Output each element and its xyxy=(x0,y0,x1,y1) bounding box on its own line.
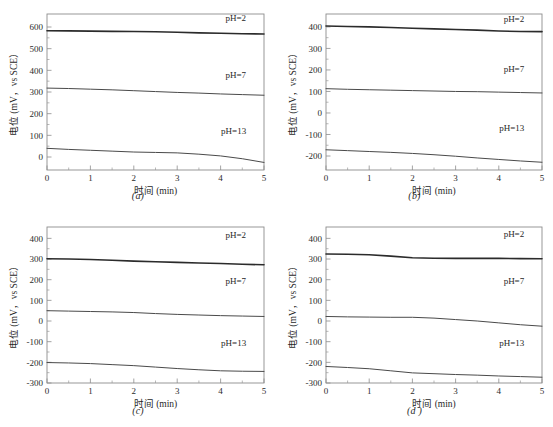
x-tick-label: 4 xyxy=(218,173,223,183)
y-tick-label: -200 xyxy=(306,358,323,368)
series-annotation-pH-2: pH=2 xyxy=(504,229,525,239)
series-curve-pH-2 xyxy=(47,259,264,265)
x-tick-label: 2 xyxy=(132,386,137,396)
series-annotation-pH-2: pH=2 xyxy=(504,14,525,24)
series-curve-pH-13 xyxy=(47,148,264,162)
y-axis-title: 电位 (mV，vs SCE） xyxy=(8,261,20,349)
series-annotation-pH-7: pH=7 xyxy=(504,276,525,286)
series-annotation-pH-2: pH=2 xyxy=(226,230,247,240)
series-curve-pH-13 xyxy=(326,150,542,162)
x-tick-label: 1 xyxy=(367,386,372,396)
x-tick-label: 4 xyxy=(497,173,502,183)
y-tick-label: -100 xyxy=(306,337,323,347)
x-tick-label: 2 xyxy=(410,386,415,396)
x-tick-label: 0 xyxy=(324,386,329,396)
series-annotation-pH-7: pH=7 xyxy=(226,70,247,80)
y-tick-label: 300 xyxy=(30,254,44,264)
series-curve-pH-2 xyxy=(326,26,542,32)
x-tick-label: 5 xyxy=(540,386,545,396)
y-tick-label: 400 xyxy=(30,66,44,76)
x-tick-label: 0 xyxy=(324,173,329,183)
x-tick-label: 4 xyxy=(218,386,223,396)
y-tick-label: 400 xyxy=(309,22,323,32)
series-curve-pH-7 xyxy=(47,311,264,317)
series-annotation-pH-7: pH=7 xyxy=(504,64,525,74)
y-tick-label: 0 xyxy=(318,108,323,118)
figure-container: 0123450100200300400500600电位 (mV，vs SCE）时… xyxy=(0,0,553,427)
x-tick-label: 5 xyxy=(262,386,267,396)
x-tick-label: 0 xyxy=(45,173,50,183)
series-annotation-pH-13: pH=13 xyxy=(221,126,247,136)
series-curve-pH-2 xyxy=(47,31,264,34)
series-annotation-pH-2: pH=2 xyxy=(226,13,247,23)
y-tick-label: -300 xyxy=(27,378,44,388)
y-axis-title: 电位 (mV，vs SCE） xyxy=(8,48,20,136)
y-tick-label: 500 xyxy=(30,44,44,54)
panel-caption: (d ) xyxy=(276,405,553,416)
y-tick-label: 200 xyxy=(309,275,323,285)
series-annotation-pH-13: pH=13 xyxy=(221,338,247,348)
x-tick-label: 4 xyxy=(497,386,502,396)
x-tick-label: 0 xyxy=(45,386,50,396)
series-curve-pH-7 xyxy=(47,88,264,95)
series-curve-pH-13 xyxy=(326,366,542,377)
y-tick-label: -200 xyxy=(27,358,44,368)
y-tick-label: 100 xyxy=(30,296,44,306)
y-tick-label: 300 xyxy=(30,87,44,97)
y-tick-label: -100 xyxy=(306,130,323,140)
x-tick-label: 5 xyxy=(262,173,267,183)
y-tick-label: 100 xyxy=(30,131,44,141)
x-tick-label: 3 xyxy=(453,173,458,183)
y-tick-label: 200 xyxy=(309,65,323,75)
y-tick-label: 100 xyxy=(309,87,323,97)
series-annotation-pH-13: pH=13 xyxy=(499,123,525,133)
y-tick-label: -300 xyxy=(306,378,323,388)
x-tick-label: 3 xyxy=(175,386,180,396)
y-tick-label: 0 xyxy=(318,316,323,326)
plot-frame xyxy=(47,227,264,383)
series-annotation-pH-13: pH=13 xyxy=(499,338,525,348)
y-tick-label: 200 xyxy=(30,275,44,285)
y-tick-label: 400 xyxy=(30,234,44,244)
chart-panel-1: 0123450100200300400500600电位 (mV，vs SCE）时… xyxy=(0,0,276,211)
y-tick-label: -100 xyxy=(27,337,44,347)
x-tick-label: 1 xyxy=(88,386,93,396)
x-tick-label: 1 xyxy=(367,173,372,183)
x-tick-label: 2 xyxy=(410,173,415,183)
y-tick-label: 400 xyxy=(309,234,323,244)
chart-panel-3: 012345-300-200-1000100200300400电位 (mV，vs… xyxy=(0,211,276,427)
panel-caption: (b) xyxy=(276,190,553,201)
x-tick-label: 3 xyxy=(453,386,458,396)
y-tick-label: 200 xyxy=(30,109,44,119)
x-tick-label: 2 xyxy=(132,173,137,183)
chart-panel-4: 012345-300-200-1000100200300400电位 (mV，vs… xyxy=(276,211,553,427)
series-curve-pH-7 xyxy=(326,316,542,326)
x-tick-label: 5 xyxy=(540,173,545,183)
panel-caption: (a) xyxy=(0,190,276,201)
x-tick-label: 3 xyxy=(175,173,180,183)
y-axis-title: 电位 (mV，vs SCE） xyxy=(287,261,299,349)
plot-frame xyxy=(326,227,542,383)
y-tick-label: 300 xyxy=(309,44,323,54)
y-tick-label: 300 xyxy=(309,254,323,264)
series-curve-pH-13 xyxy=(47,363,264,372)
y-tick-label: 0 xyxy=(39,152,44,162)
series-curve-pH-2 xyxy=(326,254,542,259)
chart-panel-2: 012345-200-1000100200300400电位 (mV，vs SCE… xyxy=(276,0,553,211)
y-tick-label: -200 xyxy=(306,151,323,161)
panel-caption: (c) xyxy=(0,405,276,416)
y-tick-label: 100 xyxy=(309,296,323,306)
y-tick-label: 600 xyxy=(30,22,44,32)
series-curve-pH-7 xyxy=(326,89,542,93)
y-axis-title: 电位 (mV，vs SCE） xyxy=(287,48,299,136)
y-tick-label: 0 xyxy=(39,316,44,326)
x-tick-label: 1 xyxy=(88,173,93,183)
series-annotation-pH-7: pH=7 xyxy=(226,276,247,286)
